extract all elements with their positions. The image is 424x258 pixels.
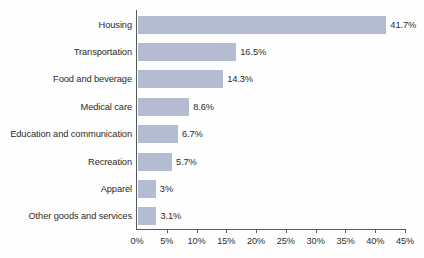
category-label: Apparel [101,184,132,195]
category-label: Housing [99,19,132,30]
bar-row: Medical care8.6% [0,93,424,120]
x-tick-label: 35% [336,236,354,246]
bar-value-label: 3% [160,184,173,194]
bar-row: Other goods and services3.1% [0,203,424,230]
bar [138,98,189,116]
category-label: Medical care [80,101,132,112]
x-tick-label: 5% [160,236,173,246]
bar [138,180,156,198]
x-tick-mark [405,229,406,233]
x-tick-label: 45% [396,236,414,246]
bar [138,125,178,143]
bar-row: Food and beverage14.3% [0,66,424,93]
x-tick-mark [197,229,198,233]
category-label: Food and beverage [53,74,132,85]
x-tick-mark [375,229,376,233]
x-tick-mark [226,229,227,233]
x-tick-label: 0% [130,236,143,246]
category-label: Transportation [74,47,132,58]
bar-row: Transportation16.5% [0,38,424,65]
bar-row: Housing41.7% [0,11,424,38]
x-tick-label: 25% [277,236,295,246]
bar [138,70,223,88]
bar-value-label: 41.7% [390,20,416,30]
bar-chart: Housing41.7%Transportation16.5%Food and … [0,0,424,258]
x-tick-label: 20% [247,236,265,246]
bar-value-label: 14.3% [227,74,253,84]
x-tick-label: 30% [307,236,325,246]
bar [138,16,386,34]
bar [138,43,236,61]
bar-value-label: 5.7% [176,157,197,167]
bar-row: Apparel3% [0,175,424,202]
x-tick-mark [316,229,317,233]
category-label: Other goods and services [28,211,132,222]
bar-row: Education and communication6.7% [0,121,424,148]
x-tick-mark [286,229,287,233]
x-tick-mark [345,229,346,233]
bar-value-label: 8.6% [193,102,214,112]
x-tick-mark [256,229,257,233]
bar-value-label: 6.7% [182,129,203,139]
category-label: Recreation [88,156,132,167]
bar-row: Recreation5.7% [0,148,424,175]
bar [138,153,172,171]
x-tick-mark [167,229,168,233]
bar-value-label: 16.5% [240,47,266,57]
category-label: Education and communication [10,129,132,140]
bar-value-label: 3.1% [160,211,181,221]
x-tick-label: 40% [366,236,384,246]
x-tick-label: 15% [217,236,235,246]
x-tick-label: 10% [188,236,206,246]
bar [138,207,156,225]
